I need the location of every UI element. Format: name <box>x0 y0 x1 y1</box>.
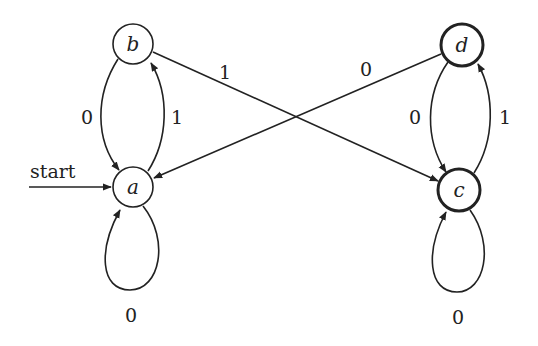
edge-a-to-b: 1 <box>148 63 183 171</box>
edge-label-c-d: 1 <box>499 106 511 128</box>
start-arrow: start <box>29 160 111 187</box>
edge-a-self-loop: 0 <box>105 206 158 326</box>
state-d-accepting: d <box>441 24 483 66</box>
state-label-b: b <box>127 32 140 56</box>
edge-b-to-a: 0 <box>81 59 119 170</box>
edge-d-to-c: 0 <box>409 62 448 172</box>
edge-c-to-d: 1 <box>474 64 511 173</box>
edge-label-d-a: 0 <box>360 58 372 80</box>
state-label-d: d <box>456 33 469 57</box>
edge-label-a-a: 0 <box>125 304 137 326</box>
state-c-accepting: c <box>438 169 480 211</box>
edge-label-c-c: 0 <box>452 306 464 328</box>
automaton-diagram: start 0 1 0 1 0 0 1 0 b <box>0 0 538 346</box>
edge-label-b-c: 1 <box>219 61 231 83</box>
edge-label-d-c: 0 <box>409 106 421 128</box>
state-label-a: a <box>127 175 139 199</box>
edge-c-self-loop: 0 <box>432 210 484 328</box>
state-a: a <box>113 167 153 207</box>
edge-label-b-a: 0 <box>81 106 93 128</box>
state-b: b <box>113 24 153 64</box>
state-label-c: c <box>453 178 464 202</box>
edge-label-a-b: 1 <box>171 106 183 128</box>
start-label: start <box>30 160 76 182</box>
